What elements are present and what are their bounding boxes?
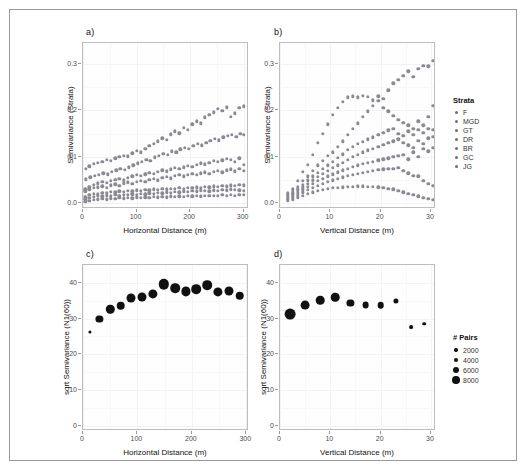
x-tick-mark	[82, 431, 83, 434]
data-point-GT	[156, 170, 159, 173]
data-point-GC	[351, 173, 354, 176]
data-point-BR	[432, 146, 435, 149]
strata-legend-item[interactable]: JG	[453, 162, 479, 171]
data-point-BR	[407, 158, 410, 161]
strata-legend-label: MGD	[463, 118, 479, 125]
data-point-DR	[182, 175, 185, 178]
data-point-BR	[336, 171, 339, 174]
data-point-JG	[92, 198, 95, 201]
gridline-horizontal-minor	[280, 372, 434, 373]
data-point-DR	[397, 138, 400, 141]
data-point-F	[316, 141, 319, 144]
data-point-BR	[216, 185, 219, 188]
pairs-legend-item[interactable]: 8000	[453, 375, 479, 385]
pairs-legend-item[interactable]: 4000	[453, 355, 479, 365]
pairs-legend-item[interactable]: 2000	[453, 345, 479, 355]
data-point-MGD	[331, 151, 334, 154]
gridline-horizontal	[280, 64, 434, 65]
data-point-GC	[407, 171, 410, 174]
pairs-legend-label: 4000	[463, 357, 479, 364]
data-point-DR	[407, 144, 410, 147]
data-point-JG	[291, 198, 294, 201]
legend-dot-icon	[453, 367, 463, 373]
data-point-BR	[178, 186, 181, 189]
data-point-JG	[316, 189, 319, 192]
data-point-JG	[195, 194, 198, 197]
data-point-JG	[422, 196, 425, 199]
data-point-F	[233, 112, 236, 115]
data-point-BR	[126, 189, 129, 192]
data-point-MGD	[336, 145, 339, 148]
data-point-DR	[143, 180, 146, 183]
data-point-JG	[139, 196, 142, 199]
data-point-DR	[356, 153, 359, 156]
pairs-legend-item[interactable]: 6000	[453, 365, 479, 375]
data-point-GC	[178, 191, 181, 194]
strata-legend-label: JG	[463, 163, 472, 170]
data-point-JG	[412, 193, 415, 196]
strata-legend-item[interactable]: DR	[453, 135, 479, 144]
data-point-JG	[191, 195, 194, 198]
data-point-GC	[386, 167, 389, 170]
data-point-BR	[118, 190, 121, 193]
gridline-vertical-minor	[163, 43, 164, 207]
y-tick-mark	[78, 156, 81, 157]
data-point-MGD	[209, 139, 212, 142]
data-point-MGD	[200, 144, 203, 147]
data-point-GC	[427, 182, 430, 185]
data-point-GT	[101, 180, 104, 183]
data-point-MGD	[89, 176, 92, 179]
data-point-F	[212, 111, 215, 114]
data-point-F	[397, 78, 400, 81]
data-point-BR	[238, 183, 241, 186]
data-point-JG	[233, 194, 236, 197]
data-point-F	[417, 67, 420, 70]
data-point-F	[361, 94, 364, 97]
strata-legend-item[interactable]: BR	[453, 144, 479, 153]
data-point-JG	[208, 194, 211, 197]
data-point-MGD	[217, 138, 220, 141]
strata-legend-dot	[455, 147, 458, 150]
gridline-vertical	[246, 265, 247, 429]
data-point-F	[392, 82, 395, 85]
data-point-DR	[432, 135, 435, 138]
gridline-horizontal	[83, 390, 247, 391]
pairs-legend-title: # Pairs	[453, 333, 479, 342]
panel-c-plot-area	[82, 264, 248, 430]
gridline-vertical	[137, 265, 138, 429]
data-point-GT	[371, 136, 374, 139]
y-tick-mark	[78, 318, 81, 319]
data-point-DR	[195, 173, 198, 176]
strata-legend-item[interactable]: MGD	[453, 117, 479, 126]
y-tick-mark	[78, 389, 81, 390]
pairs-legend-dot	[454, 348, 457, 351]
panel-a-plot-area	[82, 42, 248, 208]
data-point-GT	[366, 138, 369, 141]
gridline-vertical	[431, 265, 432, 429]
data-point-F	[432, 59, 435, 62]
strata-legend-item[interactable]: GC	[453, 153, 479, 162]
data-point-JG	[131, 197, 134, 200]
data-point-GC	[208, 190, 211, 193]
data-point-MGD	[321, 159, 324, 162]
gridline-vertical-minor	[305, 265, 306, 429]
strata-legend-item[interactable]: F	[453, 108, 479, 117]
data-point-GC	[182, 190, 185, 193]
data-point-JG	[341, 185, 344, 188]
strata-legend-items: FMGDGTDRBRGCJG	[453, 108, 479, 171]
data-point-F	[135, 149, 138, 152]
data-point	[149, 289, 158, 298]
gridline-horizontal	[280, 390, 434, 391]
data-point-F	[321, 132, 324, 135]
strata-legend-item[interactable]: GT	[453, 126, 479, 135]
data-point-GT	[173, 166, 176, 169]
data-point-GC	[392, 167, 395, 170]
data-point-BR	[229, 184, 232, 187]
data-point-DR	[105, 186, 108, 189]
y-tick-label: 40	[255, 278, 274, 285]
data-point-DR	[321, 172, 324, 175]
data-point-GC	[221, 188, 224, 191]
y-tick-mark	[275, 282, 278, 283]
data-point-F	[84, 167, 87, 170]
data-point-DR	[221, 171, 224, 174]
